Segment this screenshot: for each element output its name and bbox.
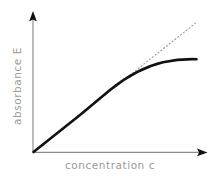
plot-canvas: concentration c absorbance E — [0, 0, 215, 180]
y-axis-label: absorbance E — [11, 47, 23, 125]
x-axis-label: concentration c — [65, 159, 155, 171]
absorbance-concentration-figure: concentration c absorbance E — [0, 0, 215, 180]
absorbance-curve — [34, 59, 197, 152]
